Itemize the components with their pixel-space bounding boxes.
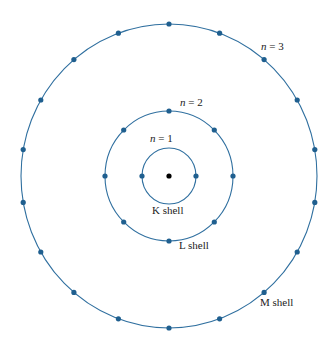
electron-dot xyxy=(21,147,26,152)
electron-dot xyxy=(262,290,267,295)
electron-dot xyxy=(71,57,76,62)
electron-dot xyxy=(295,249,300,254)
electron-dot xyxy=(116,316,121,321)
electron-dot xyxy=(217,316,222,321)
electron-dot xyxy=(121,127,126,132)
l-shell-label: L shell xyxy=(179,239,209,251)
electron-dot xyxy=(21,200,26,205)
k-shell-label: K shell xyxy=(152,204,183,216)
m-shell-label: M shell xyxy=(260,296,293,308)
n2-label: n = 2 xyxy=(180,96,203,108)
electron-dot xyxy=(116,31,121,36)
electron-dot xyxy=(71,290,76,295)
electron-dot xyxy=(230,173,235,178)
electron-dot xyxy=(166,21,171,26)
electron-dot xyxy=(262,57,267,62)
nucleus xyxy=(166,173,171,178)
electron-dot xyxy=(166,238,171,243)
electron-dot xyxy=(217,31,222,36)
electron-dot xyxy=(295,97,300,102)
electron-dot xyxy=(193,173,198,178)
electron-dot xyxy=(166,108,171,113)
electron-dot xyxy=(38,97,43,102)
electron-dot xyxy=(121,219,126,224)
electron-dot xyxy=(312,200,317,205)
electron-dot xyxy=(139,173,144,178)
electron-dot xyxy=(166,325,171,330)
electron-dot xyxy=(212,219,217,224)
electron-dot xyxy=(102,173,107,178)
n1-label: n = 1 xyxy=(150,132,173,144)
electron-dot xyxy=(38,249,43,254)
electron-dot xyxy=(212,127,217,132)
n3-label: n = 3 xyxy=(261,40,284,52)
atom-shell-diagram: n = 1 n = 2 n = 3 K shell L shell M shel… xyxy=(0,0,334,350)
electron-dot xyxy=(312,147,317,152)
